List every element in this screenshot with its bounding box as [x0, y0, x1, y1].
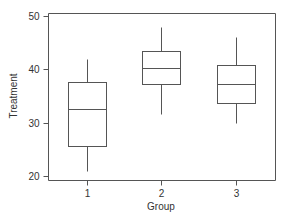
y-tick-label: 40 — [28, 64, 40, 75]
box-iqr — [69, 83, 107, 147]
x-tick-label: 1 — [85, 188, 91, 199]
y-axis: 20304050 — [28, 11, 48, 182]
y-tick-label: 30 — [28, 118, 40, 129]
x-tick-label: 2 — [159, 188, 165, 199]
y-axis-title: Treatment — [8, 73, 19, 118]
x-axis: 123 — [85, 181, 240, 199]
y-tick-label: 50 — [28, 11, 40, 22]
x-axis-title: Group — [147, 201, 175, 212]
box-group-3 — [218, 38, 256, 124]
box-series — [69, 28, 256, 172]
box-plot-chart: 20304050 123 Group Treatment — [0, 0, 290, 221]
x-tick-label: 3 — [234, 188, 240, 199]
box-group-2 — [143, 28, 181, 115]
box-group-1 — [69, 60, 107, 172]
y-tick-label: 20 — [28, 171, 40, 182]
